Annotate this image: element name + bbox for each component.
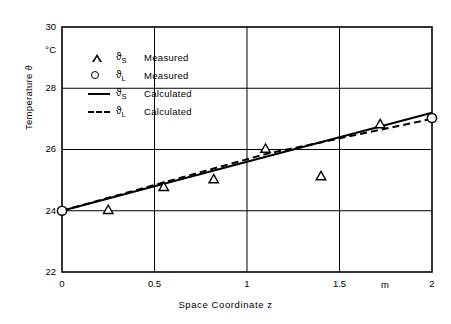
ytick-label: 24 bbox=[22, 206, 56, 216]
legend-label: Calculated bbox=[144, 106, 192, 117]
xtick-label: 0.5 bbox=[135, 279, 175, 289]
legend-variable: ϑL bbox=[116, 105, 126, 119]
marker-triangle bbox=[375, 119, 385, 127]
xtick-label: 0 bbox=[42, 279, 82, 289]
solid-line-icon bbox=[88, 86, 114, 102]
xtick-label: 1 bbox=[227, 279, 267, 289]
marker-circle bbox=[57, 206, 66, 215]
xtick-label: 2 bbox=[412, 279, 451, 289]
marker-triangle bbox=[261, 144, 271, 152]
legend-subscript: L bbox=[121, 110, 125, 119]
legend-label: Measured bbox=[144, 70, 189, 81]
legend-subscript: S bbox=[121, 56, 126, 65]
marker-triangle bbox=[104, 205, 114, 213]
marker-triangle bbox=[316, 171, 326, 179]
dashed-line-icon bbox=[88, 104, 114, 120]
legend-subscript: S bbox=[121, 92, 126, 101]
legend-variable: ϑL bbox=[116, 69, 126, 83]
circle-marker-icon bbox=[88, 68, 114, 84]
xaxis-unit: m bbox=[365, 279, 405, 290]
ytick-label: 22 bbox=[22, 267, 56, 277]
plot-canvas bbox=[0, 0, 451, 324]
legend-label: Calculated bbox=[144, 88, 192, 99]
chart-figure: 30 °C 28 26 24 22 0 0.5 1 1.5 m 2 Temper… bbox=[0, 0, 451, 324]
legend-variable: ϑS bbox=[116, 51, 126, 65]
marker-triangle bbox=[209, 175, 218, 183]
legend-label: Measured bbox=[144, 52, 189, 63]
ytick-label: 30 bbox=[22, 22, 56, 32]
series-markers-theta-s-measured bbox=[104, 119, 385, 213]
legend-subscript: L bbox=[121, 74, 125, 83]
x-axis-title: Space Coordinate z bbox=[0, 299, 451, 310]
y-axis-title: Temperature ϑ bbox=[23, 33, 34, 163]
triangle-marker-icon bbox=[88, 50, 114, 66]
legend-variable: ϑS bbox=[116, 87, 126, 101]
xtick-label: 1.5 bbox=[320, 279, 360, 289]
marker-circle bbox=[427, 113, 436, 122]
